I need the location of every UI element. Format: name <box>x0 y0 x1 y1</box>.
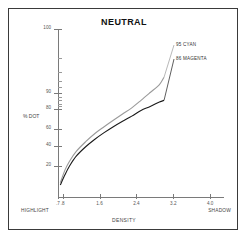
series-label-magenta: 86 MAGENTA <box>176 56 207 61</box>
series-line-magenta <box>60 100 164 185</box>
y-tick-label: 90 <box>46 89 51 94</box>
plot-area: 2040608090100 .7.81.62.43.24.0 95 CYAN 8… <box>58 29 224 198</box>
x-tick-label: 3.2 <box>170 201 176 206</box>
leader-line-magenta <box>164 59 174 100</box>
x-axis-left-end-label: HIGHLIGHT <box>21 208 49 213</box>
x-tick-label: 1.6 <box>96 201 102 206</box>
x-axis-right-end-label: SHADOW <box>208 208 231 213</box>
chart-figure: NEUTRAL % DOT DENSITY HIGHLIGHT SHADOW 2… <box>0 0 248 240</box>
x-tick-label: 4.0 <box>207 201 213 206</box>
series-label-cyan: 95 CYAN <box>176 42 196 47</box>
y-axis-label: % DOT <box>23 113 39 119</box>
x-tick-label: 2.4 <box>133 201 139 206</box>
y-tick-label: 60 <box>46 125 51 130</box>
x-tick-label: .7 <box>56 201 60 206</box>
y-tick-label: 40 <box>46 142 51 147</box>
y-tick-label: 100 <box>43 25 51 30</box>
y-tick-label: 20 <box>46 162 51 167</box>
y-tick-label: 80 <box>46 105 51 110</box>
chart-frame: NEUTRAL % DOT DENSITY HIGHLIGHT SHADOW 2… <box>8 8 238 230</box>
curve-lines <box>58 29 224 198</box>
series-line-cyan <box>60 77 164 182</box>
x-tick-label: .8 <box>61 201 65 206</box>
x-axis-label: DENSITY <box>9 217 239 223</box>
leader-line-cyan <box>164 45 174 77</box>
